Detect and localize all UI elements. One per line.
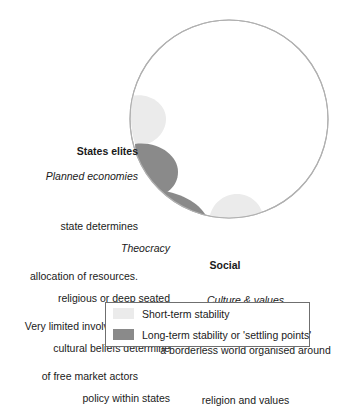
planned-economies-heading: Planned economies (0, 170, 138, 182)
theocracy-line-3: policy within states (0, 392, 170, 404)
legend-item-long-term: Long-term stability or 'settling points' (106, 324, 309, 345)
legend-label-short-term: Short-term stability (142, 308, 230, 320)
legend-label-long-term: Long-term stability or 'settling points' (142, 329, 311, 341)
theocracy-heading: Theocracy (0, 242, 170, 254)
short-term-swatch-icon (113, 308, 134, 319)
legend-item-short-term: Short-term stability (106, 303, 309, 324)
long-term-swatch-icon (113, 329, 134, 340)
culture-values-line-2: religion and values (150, 394, 341, 406)
legend-box: Short-term stability Long-term stability… (105, 302, 310, 347)
